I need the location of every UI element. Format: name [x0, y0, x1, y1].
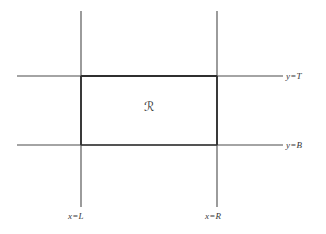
label-y-equals-B: y=B — [286, 141, 302, 150]
rectangle-region-diagram — [0, 0, 326, 234]
region-label-R: ℛ — [144, 101, 154, 114]
figure-container: ℛ y=T y=B x=L x=R — [0, 0, 326, 234]
label-y-equals-T: y=T — [286, 72, 302, 81]
figure-background — [0, 0, 326, 234]
label-x-equals-L: x=L — [68, 212, 84, 221]
label-x-equals-R: x=R — [205, 212, 221, 221]
